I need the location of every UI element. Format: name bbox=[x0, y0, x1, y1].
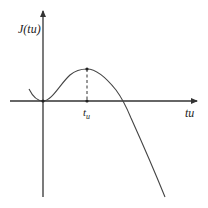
y-axis-label: J(tu) bbox=[18, 22, 41, 36]
x-axis-label: tu bbox=[185, 106, 194, 120]
tu-tick-point bbox=[85, 99, 88, 102]
maximum-point bbox=[85, 67, 88, 70]
marker-label-subscript: u bbox=[86, 112, 90, 121]
marker-label: tu bbox=[83, 106, 90, 121]
origin-point bbox=[41, 99, 44, 102]
diagram-canvas: J(tu) tu tu bbox=[0, 0, 208, 208]
curve-j bbox=[29, 69, 165, 197]
